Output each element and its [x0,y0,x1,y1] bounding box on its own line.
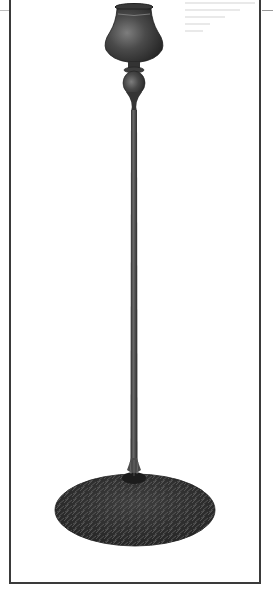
candle-base [55,458,215,546]
candle-knob [123,62,145,112]
candle-cup [105,4,163,63]
candlestick-photo [0,0,273,593]
candle-stem [131,110,138,462]
